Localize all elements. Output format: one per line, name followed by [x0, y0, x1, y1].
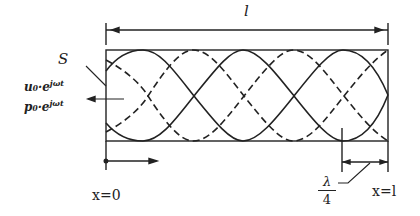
- x-axis-arrowhead: [149, 159, 157, 164]
- quarter-arrowhead-left: [344, 160, 350, 164]
- quarter-wave-leader: [338, 163, 370, 183]
- end-label: x=l: [372, 183, 396, 199]
- surface-leader: [86, 66, 106, 86]
- arrowhead-left: [112, 28, 119, 33]
- source-arrowhead-left: [88, 97, 95, 102]
- length-label: l: [241, 2, 252, 20]
- velocity-source-label: u₀·ejωt: [24, 78, 64, 94]
- velocity-exponent: jωt: [50, 78, 64, 88]
- pressure-source-label: p₀·ejωt: [24, 98, 64, 114]
- surface-label: S: [58, 50, 68, 68]
- lambda-numerator: λ: [318, 174, 336, 189]
- dashed-curve-lower: [106, 50, 388, 141]
- pressure-base: p₀·e: [24, 100, 49, 114]
- origin-label: x=0: [92, 187, 121, 203]
- quarter-wavelength-label: λ 4: [318, 174, 336, 207]
- arrowhead-right: [375, 28, 382, 33]
- fraction-denominator: 4: [318, 192, 336, 207]
- velocity-base: u₀·e: [24, 80, 50, 94]
- quarter-arrowhead-right: [380, 160, 386, 164]
- pressure-exponent: jωt: [49, 98, 63, 108]
- fraction-bar: [318, 190, 336, 191]
